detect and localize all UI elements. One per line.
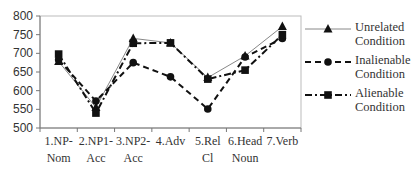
circle-marker: [204, 105, 212, 113]
square-marker: [279, 31, 287, 39]
square-marker: [55, 50, 63, 58]
x-tick-label: Acc: [86, 151, 105, 165]
x-tick-label: 5.Rel: [195, 134, 221, 148]
square-marker: [129, 39, 137, 47]
chart-axes: 5005506006507007508001.NP-Nom2.NP1-Acc3.…: [13, 9, 301, 165]
chart-legend: UnrelatedConditionInalienableConditionAl…: [305, 20, 412, 119]
square-marker: [241, 66, 249, 74]
x-tick-label: 2.NP1-: [79, 134, 113, 148]
series-triangle: [54, 21, 287, 111]
x-tick-label: 6.Head: [228, 134, 262, 148]
y-tick-label: 750: [13, 28, 33, 42]
x-tick-label: Acc: [124, 151, 143, 165]
circle-marker: [129, 59, 137, 67]
x-tick-label: Noun: [232, 151, 259, 165]
y-tick-label: 800: [13, 9, 33, 23]
legend-item: AlienableCondition: [305, 86, 412, 119]
circle-marker: [167, 73, 175, 81]
y-tick-label: 650: [13, 65, 33, 79]
plot-area: [54, 21, 287, 116]
x-tick-label: 4.Adv: [156, 134, 186, 148]
circle-marker: [92, 97, 100, 105]
legend-label: UnrelatedCondition: [355, 20, 405, 48]
x-tick-label: 7.Verb: [267, 134, 299, 148]
legend-swatch-circle: [305, 56, 351, 68]
circle-marker: [324, 58, 332, 66]
legend-item: UnrelatedCondition: [305, 20, 412, 53]
x-tick-label: Nom: [47, 151, 72, 165]
square-marker: [324, 91, 332, 99]
x-tick-label: 1.NP-: [44, 134, 72, 148]
y-tick-label: 700: [13, 46, 33, 60]
triangle-marker: [278, 21, 287, 30]
legend-label: InalienableCondition: [355, 53, 411, 81]
y-tick-label: 550: [13, 102, 33, 116]
y-tick-label: 500: [13, 121, 33, 135]
legend-swatch-triangle: [305, 23, 351, 35]
y-tick-label: 600: [13, 84, 33, 98]
legend-item: InalienableCondition: [305, 53, 412, 86]
legend-label: AlienableCondition: [355, 86, 405, 114]
plot-border: [40, 16, 301, 128]
circle-marker: [241, 53, 249, 61]
square-marker: [167, 39, 175, 47]
square-marker: [204, 75, 212, 83]
x-tick-label: 3.NP2-: [116, 134, 150, 148]
triangle-marker: [324, 24, 333, 33]
x-tick-label: Cl: [202, 151, 214, 165]
square-marker: [92, 109, 100, 117]
legend-swatch-square: [305, 89, 351, 101]
